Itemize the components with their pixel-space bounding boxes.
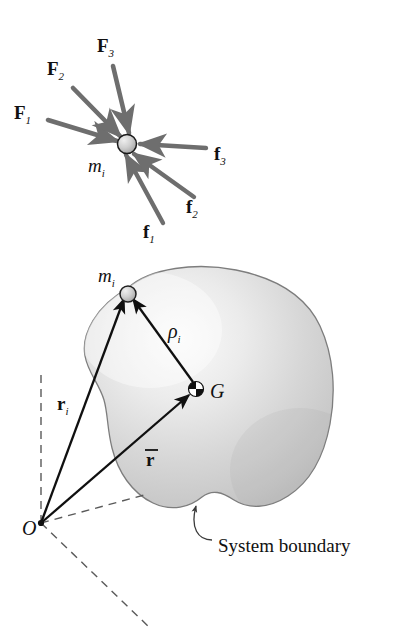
- system-boundary-annotation: System boundary: [194, 506, 351, 556]
- force-vector-f3: [140, 144, 206, 148]
- origin-dot: [38, 520, 44, 526]
- label-F2: F2: [47, 58, 65, 82]
- label-mi-bottom: mi: [98, 265, 115, 289]
- label-f1: f1: [143, 221, 155, 245]
- mass-center-marker: [189, 382, 204, 397]
- particle-circle: [120, 286, 136, 302]
- label-f2: f2: [186, 196, 198, 220]
- label-mi-top: mi: [88, 155, 105, 179]
- bottom-system-diagram: System boundary mi G O ri r ρi: [22, 265, 370, 626]
- force-vector-F3: [113, 66, 129, 133]
- label-r-i: ri: [57, 393, 69, 417]
- label-G: G: [210, 380, 225, 402]
- label-F3: F3: [97, 35, 115, 59]
- mechanics-figure: F1 F2 F3 f1 f2 f3 mi: [0, 0, 414, 644]
- particle-mi-bottom: [120, 286, 136, 302]
- label-F1: F1: [14, 102, 31, 126]
- label-O: O: [22, 517, 36, 539]
- force-vector-f1: [126, 155, 163, 223]
- particle-mi-top: [118, 135, 137, 154]
- system-boundary-label: System boundary: [218, 535, 351, 556]
- label-f3: f3: [214, 143, 226, 167]
- particle-circle: [118, 135, 137, 154]
- top-free-body-diagram: F1 F2 F3 f1 f2 f3 mi: [14, 35, 226, 245]
- origin-point: [38, 520, 44, 526]
- figure-canvas: F1 F2 F3 f1 f2 f3 mi: [0, 0, 414, 644]
- axis-lower-right: [41, 523, 148, 626]
- label-r-bar-glyph: r: [146, 449, 155, 470]
- system-boundary-leader-line: [194, 506, 212, 540]
